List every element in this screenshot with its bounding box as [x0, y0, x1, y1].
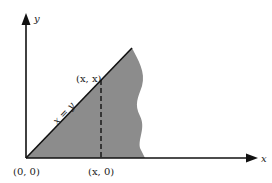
- region-diagram: y x x = y (x, x) (0, 0) (x, 0): [0, 0, 272, 183]
- point-label-origin: (0, 0): [13, 166, 40, 177]
- x-axis-arrow-icon: [246, 154, 258, 163]
- point-label-on-line: (x, x): [76, 73, 102, 84]
- point-label-on-axis: (x, 0): [88, 166, 114, 177]
- y-axis-arrow-icon: [22, 13, 31, 25]
- y-axis-label: y: [33, 13, 40, 24]
- x-axis-label: x: [261, 153, 267, 164]
- shaded-region: [26, 48, 145, 158]
